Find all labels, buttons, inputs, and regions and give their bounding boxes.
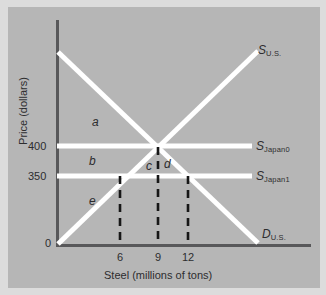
x-tick-6: 6 [117,252,123,263]
x-tick-12: 12 [182,252,194,263]
curve-label-supply-japan-1-subscript: Japan [264,175,285,184]
curve-label-supply-japan-0: SJapan0 [256,140,290,154]
curve-label-supply-japan-1-symbol: S [256,169,264,183]
x-tick-9: 9 [155,252,161,263]
curve-label-supply-japan-1-index: 1 [285,175,289,184]
region-label-b: b [89,155,96,167]
x-axis-title: Steel (millions of tons) [104,270,212,281]
curve-label-demand-us-symbol: D [262,227,271,241]
curve-label-supply-us-subscript: U.S. [266,49,281,58]
origin-label: 0 [45,238,51,249]
curve-label-supply-us: SU.S. [258,44,281,58]
region-label-e: e [89,195,96,207]
y-tick-350: 350 [28,171,46,182]
curve-label-demand-us: DU.S. [262,228,286,242]
curve-label-supply-japan-0-index: 0 [285,145,289,154]
curve-label-supply-japan-0-symbol: S [256,139,264,153]
curve-label-supply-us-symbol: S [258,43,266,57]
region-label-d: d [164,158,171,170]
curve-label-supply-japan-1: SJapan1 [256,170,290,184]
figure-root: Price (dollars) 400 350 0 6 9 12 Steel (… [0,0,326,295]
region-label-c: c [146,160,152,172]
curve-label-supply-japan-0-subscript: Japan [264,145,285,154]
y-tick-400: 400 [28,141,46,152]
region-label-a: a [92,116,99,128]
curve-label-demand-us-subscript: U.S. [271,233,286,242]
